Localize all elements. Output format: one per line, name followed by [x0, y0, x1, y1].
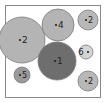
center-dot-icon — [55, 24, 57, 26]
circle-node: 1 — [38, 42, 76, 80]
center-dot-icon — [87, 51, 89, 53]
circle-label: 6 — [78, 48, 83, 57]
circle-label: 2 — [88, 16, 93, 25]
diagram-canvas: 2421652 — [0, 0, 105, 103]
circle-node: 6 — [78, 45, 93, 59]
circle-node: 2 — [78, 71, 98, 91]
circle-node: 5 — [14, 67, 30, 83]
circle-label: 2 — [88, 77, 93, 86]
circle-label: 1 — [57, 56, 63, 66]
circle-node: 2 — [78, 10, 98, 30]
center-dot-icon — [85, 19, 87, 21]
circle-label: 2 — [22, 35, 28, 45]
center-dot-icon — [54, 60, 56, 62]
center-dot-icon — [19, 74, 21, 76]
center-dot-icon — [85, 80, 87, 82]
center-dot-icon — [19, 39, 21, 41]
circle-label: 5 — [22, 71, 27, 80]
circle-label: 4 — [58, 20, 64, 30]
circle-node: 4 — [42, 9, 74, 41]
circle-packing-diagram: 2421652 — [0, 0, 105, 103]
